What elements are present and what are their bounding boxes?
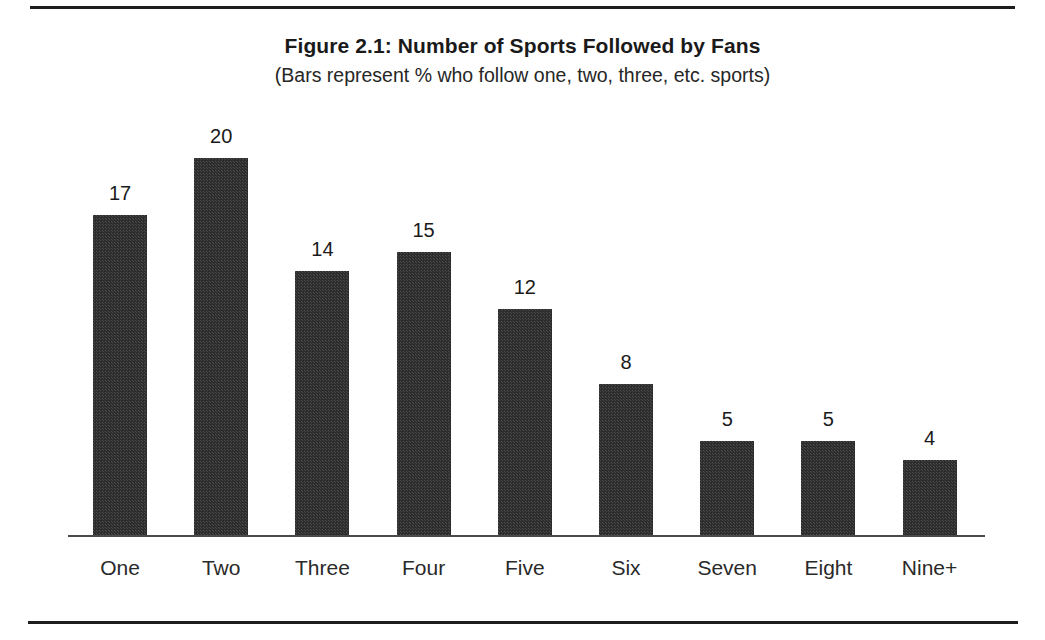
x-axis-line [68, 535, 985, 537]
bar-value-label: 12 [498, 277, 552, 297]
bar [397, 252, 451, 535]
bar-value-label: 14 [295, 239, 349, 259]
category-label: Three [267, 556, 377, 580]
bar [194, 158, 248, 535]
category-label: One [65, 556, 175, 580]
category-label: Seven [672, 556, 782, 580]
bar-group: 5 [801, 441, 855, 535]
category-label: Nine+ [875, 556, 985, 580]
bar [903, 460, 957, 535]
category-label: Eight [773, 556, 883, 580]
bar-group: 17 [93, 215, 147, 535]
bar [498, 309, 552, 535]
bar-group: 5 [700, 441, 754, 535]
figure-page: Figure 2.1: Number of Sports Followed by… [0, 0, 1045, 640]
bar-value-label: 20 [194, 126, 248, 146]
bar-value-label: 5 [700, 409, 754, 429]
bar-value-label: 5 [801, 409, 855, 429]
category-label: Six [571, 556, 681, 580]
bar-group: 15 [397, 252, 451, 535]
bar [801, 441, 855, 535]
bar-group: 20 [194, 158, 248, 535]
category-label: Five [470, 556, 580, 580]
bar-value-label: 4 [903, 428, 957, 448]
bar-group: 8 [599, 384, 653, 535]
bar [295, 271, 349, 535]
bottom-rule [28, 621, 1018, 624]
bar-group: 4 [903, 460, 957, 535]
category-label: Two [166, 556, 276, 580]
bar-value-label: 17 [93, 183, 147, 203]
bar [599, 384, 653, 535]
bar [700, 441, 754, 535]
category-label: Four [369, 556, 479, 580]
bar [93, 215, 147, 535]
bar-value-label: 8 [599, 352, 653, 372]
bar-group: 14 [295, 271, 349, 535]
bar-group: 12 [498, 309, 552, 535]
plot-area: 17201415128554 OneTwoThreeFourFiveSixSev… [0, 0, 1045, 640]
bar-value-label: 15 [397, 220, 451, 240]
